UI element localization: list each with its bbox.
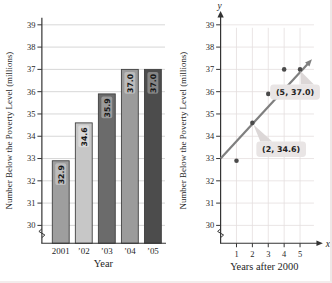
scatter-x-title: Years after 2000 bbox=[230, 261, 298, 272]
y-tick-label: 31 bbox=[206, 198, 214, 208]
data-point bbox=[234, 158, 239, 163]
bar bbox=[121, 69, 138, 243]
y-tick-label: 32 bbox=[206, 176, 214, 186]
y-tick-label: 37 bbox=[27, 64, 35, 74]
scatter-x-symbol: x bbox=[325, 239, 330, 249]
scatter-y-title: Number Below the Poverty Level (millions… bbox=[178, 52, 188, 210]
callout-label: (2, 34.6) bbox=[262, 145, 300, 154]
y-tick-label: 36 bbox=[206, 87, 214, 97]
poverty-figure: 32.934.635.937.037.0 3031323334353637383… bbox=[0, 0, 330, 281]
x-category-label: ’04 bbox=[124, 246, 136, 256]
x-tick-label: 5 bbox=[298, 249, 302, 259]
x-tick-label: 4 bbox=[282, 249, 287, 259]
x-category-label: ’03 bbox=[101, 246, 113, 256]
scatter-y-title-text: Number Below the Poverty Level (millions… bbox=[178, 52, 188, 210]
scatter-chart: y x 30313233343536373839 12345 (2, 34.6)… bbox=[178, 1, 330, 272]
x-tick-label: 1 bbox=[234, 249, 238, 259]
scatter-x-ticks: 12345 bbox=[234, 243, 302, 258]
y-tick-label: 39 bbox=[206, 20, 214, 30]
scatter-y-symbol: y bbox=[217, 1, 223, 11]
y-tick-label: 36 bbox=[27, 87, 35, 97]
callout-label: (5, 37.0) bbox=[276, 88, 314, 97]
y-tick-label: 39 bbox=[27, 20, 35, 30]
bar-chart-y-ticks: 30313233343536373839 bbox=[27, 20, 42, 231]
y-tick-label: 31 bbox=[27, 198, 35, 208]
callout-wedge bbox=[253, 125, 272, 142]
y-tick-label: 33 bbox=[27, 153, 35, 163]
x-tick-label: 2 bbox=[250, 249, 254, 259]
x-category-label: ’05 bbox=[147, 246, 159, 256]
y-tick-label: 35 bbox=[27, 109, 35, 119]
y-tick-label: 34 bbox=[27, 131, 36, 141]
bar-value-label: 37.0 bbox=[126, 73, 135, 93]
bar-chart-y-title: Number Below the Poverty Level (millions… bbox=[4, 52, 14, 210]
y-tick-label: 30 bbox=[27, 220, 35, 230]
data-point bbox=[282, 67, 287, 72]
bar-label-group: 32.9 bbox=[57, 165, 66, 184]
scatter-x-axis-arrow bbox=[316, 241, 322, 246]
y-tick-label: 30 bbox=[206, 220, 214, 230]
bar-label-group: 34.6 bbox=[80, 127, 89, 146]
scatter-y-ticks: 30313233343536373839 bbox=[206, 20, 221, 231]
y-tick-label: 33 bbox=[206, 153, 214, 163]
bar-label-group: 37.0 bbox=[126, 73, 135, 93]
y-tick-label: 32 bbox=[27, 176, 35, 186]
y-tick-label: 35 bbox=[206, 109, 214, 119]
x-tick-label: 3 bbox=[266, 249, 270, 259]
y-tick-label: 38 bbox=[206, 42, 214, 52]
bar bbox=[144, 69, 161, 243]
data-point bbox=[298, 67, 303, 72]
bar-chart-x-title: Year bbox=[94, 258, 114, 269]
data-point bbox=[266, 92, 271, 97]
callout-wedge bbox=[301, 71, 314, 84]
bar-chart-y-title-text: Number Below the Poverty Level (millions… bbox=[4, 52, 14, 210]
bar-label-group: 35.9 bbox=[103, 98, 112, 117]
bar-chart-x-labels: 2001’02’03’04’05 bbox=[52, 246, 160, 256]
bar-value-label: 35.9 bbox=[103, 98, 112, 117]
data-point bbox=[250, 121, 255, 126]
bar-value-label: 34.6 bbox=[80, 127, 89, 146]
bar-value-label: 32.9 bbox=[57, 165, 66, 184]
bar-value-label: 37.0 bbox=[149, 73, 158, 93]
y-tick-label: 37 bbox=[206, 64, 214, 74]
x-category-label: 2001 bbox=[52, 246, 70, 256]
bar-chart-bars: 32.934.635.937.037.0 bbox=[52, 69, 161, 243]
bar-label-group: 37.0 bbox=[149, 73, 158, 93]
scatter-y-axis-arrow bbox=[217, 11, 223, 17]
scatter-gridlines bbox=[221, 25, 314, 243]
x-category-label: ’02 bbox=[78, 246, 90, 256]
figure-canvas: 32.934.635.937.037.0 3031323334353637383… bbox=[0, 0, 332, 283]
y-tick-label: 34 bbox=[206, 131, 215, 141]
y-tick-label: 38 bbox=[27, 42, 35, 52]
bar-chart: 32.934.635.937.037.0 3031323334353637383… bbox=[4, 18, 166, 269]
